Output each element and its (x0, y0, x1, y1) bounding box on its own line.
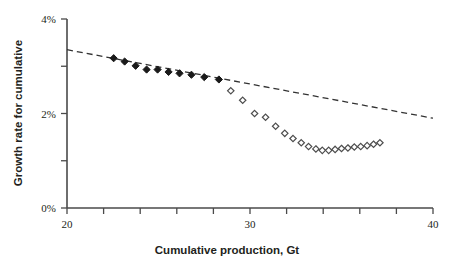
filled-diamond-marker (110, 55, 117, 62)
open-diamond-marker (290, 135, 296, 141)
x-axis-tick-label: 30 (245, 218, 257, 230)
open-diamond-marker (377, 140, 383, 146)
y-axis-tick-label: 4% (41, 13, 56, 25)
x-axis-tick-label: 20 (62, 218, 74, 230)
filled-diamond-marker (143, 66, 150, 73)
open-diamond-marker (262, 114, 268, 120)
y-axis-tick-label: 0% (41, 202, 56, 214)
open-diamond-marker (364, 142, 370, 148)
open-diamond-marker (313, 146, 319, 152)
open-diamond-marker (351, 144, 357, 150)
y-axis-title: Growth rate for cumulative (12, 40, 24, 186)
open-diamond-marker (319, 147, 325, 153)
open-diamond-marker (325, 147, 331, 153)
filled-diamond-marker (215, 76, 222, 83)
y-axis-tick-label: 2% (41, 108, 56, 120)
series-projected-growth-rate (228, 88, 384, 154)
open-diamond-marker (358, 143, 364, 149)
filled-diamond-marker (121, 58, 128, 65)
x-axis-title: Cumulative production, Gt (155, 244, 300, 256)
open-diamond-marker (239, 97, 245, 103)
open-diamond-marker (370, 141, 376, 147)
x-axis-tick-labels: 203040 (62, 218, 440, 230)
open-diamond-marker (272, 123, 278, 129)
open-diamond-marker (305, 143, 311, 149)
scatter-plot-canvas: 203040 0%2%4% Cumulative production, Gt … (0, 0, 454, 269)
chart-figure: 203040 0%2%4% Cumulative production, Gt … (0, 0, 454, 269)
open-diamond-marker (251, 110, 257, 116)
open-diamond-marker (332, 146, 338, 152)
open-diamond-marker (338, 145, 344, 151)
open-diamond-marker (228, 88, 234, 94)
open-diamond-marker (282, 130, 288, 136)
open-diamond-marker (298, 140, 304, 146)
filled-diamond-marker (201, 74, 208, 81)
open-diamond-marker (345, 145, 351, 151)
axes-group (61, 19, 433, 214)
y-axis-tick-labels: 0%2%4% (41, 13, 56, 214)
x-axis-tick-label: 40 (428, 218, 440, 230)
